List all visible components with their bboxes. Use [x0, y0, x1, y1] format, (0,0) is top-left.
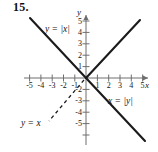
y-tick-label-4: 4 [74, 28, 82, 37]
curve-label-x-equals-abs-y: x = |y| [108, 96, 133, 106]
series-shared-upper-right-ray [86, 20, 140, 78]
y-tick-label-2: 2 [74, 51, 82, 60]
y-tick-label-3: 3 [74, 39, 82, 48]
y-tick-label--2: -2 [69, 85, 82, 94]
x-axis-name-label: x [145, 80, 149, 90]
curve-label-y-equals-abs-x: y = |x| [45, 24, 70, 34]
y-tick-label-1: 1 [74, 62, 82, 71]
y-tick-label--5: -5 [69, 119, 82, 128]
y-tick-label--3: -3 [69, 96, 82, 105]
y-tick-label-5: 5 [74, 17, 82, 26]
x-tick-label-4: 4 [127, 81, 135, 90]
x-tick-label-3: 3 [116, 81, 124, 90]
figure-container: 15. [0, 0, 158, 152]
x-tick-label-1: 1 [93, 81, 101, 90]
y-tick-label--4: -4 [69, 108, 82, 117]
curve-label-y-equals-x: y = x [21, 118, 41, 128]
y-axis-name-label: y [77, 7, 81, 17]
x-tick-label-2: 2 [105, 81, 113, 90]
